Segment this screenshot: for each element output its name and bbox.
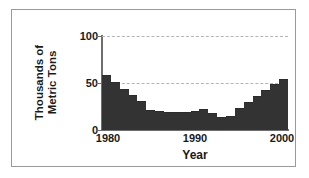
y-axis-label: Thousands of Metric Tons [26,32,66,132]
bar-1981 [111,82,120,130]
bar-1987 [164,112,173,130]
x-axis-tick-labels: 198019902000 [72,132,309,148]
x-axis-label: Year [102,148,288,162]
x-tick-label-1980: 1980 [96,132,120,144]
y-tick-mark-100 [96,36,101,37]
bar-1983 [129,95,138,130]
y-axis-tick-labels: 050100 [68,36,98,130]
bar-1999 [270,84,279,130]
y-axis-label-line-1: Thousands of [34,44,47,119]
y-tick-mark-50 [96,83,101,84]
bar-1982 [120,89,129,130]
bar-1989 [182,112,191,130]
bar-1990 [191,111,200,130]
x-tick-label-1990: 1990 [183,132,207,144]
bar-series [102,36,288,130]
bar-1996 [244,102,253,130]
bar-1986 [155,111,164,130]
bar-2000 [279,79,288,130]
plot-area [102,36,288,130]
bar-1997 [253,96,262,130]
y-axis-label-line-2: Metric Tons [46,44,59,119]
bar-1995 [235,108,244,130]
bar-1991 [199,109,208,130]
chart-frame: Thousands of Metric Tons 050100 19801990… [11,9,296,167]
bar-1992 [208,113,217,130]
y-tick-mark-0 [96,130,101,131]
bar-1984 [137,101,146,130]
bar-1980 [102,75,111,130]
bar-1993 [217,117,226,130]
bar-1994 [226,116,235,130]
bar-1998 [261,90,270,130]
x-tick-label-2000: 2000 [270,132,294,144]
bar-1988 [173,112,182,130]
bar-1985 [146,110,155,130]
